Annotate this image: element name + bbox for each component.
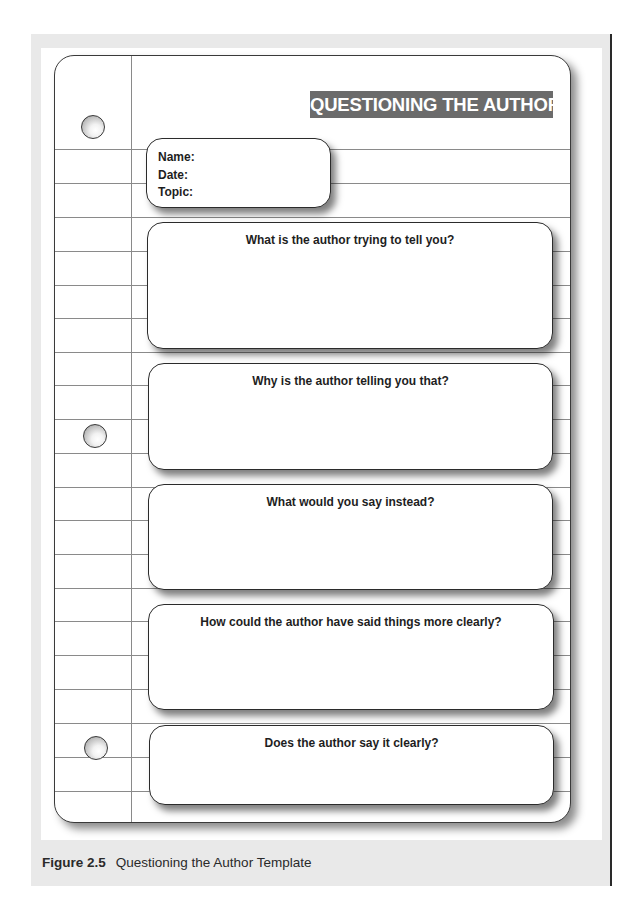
topic-field-label: Topic: bbox=[158, 184, 330, 202]
question-box-4[interactable]: How could the author have said things mo… bbox=[148, 604, 554, 710]
ruled-line bbox=[55, 352, 570, 353]
figure-number: Figure 2.5 bbox=[42, 855, 106, 870]
binder-hole-icon bbox=[81, 115, 105, 139]
question-box-1[interactable]: What is the author trying to tell you? bbox=[147, 222, 553, 349]
binder-hole-icon bbox=[83, 424, 107, 448]
question-box-3[interactable]: What would you say instead? bbox=[148, 484, 553, 590]
binder-hole-icon bbox=[84, 736, 108, 760]
question-label: What is the author trying to tell you? bbox=[148, 233, 552, 247]
question-box-2[interactable]: Why is the author telling you that? bbox=[148, 363, 553, 470]
question-label: Does the author say it clearly? bbox=[150, 736, 553, 750]
margin-line bbox=[131, 56, 132, 822]
name-field-label: Name: bbox=[158, 149, 330, 167]
student-info-box[interactable]: Name: Date: Topic: bbox=[146, 138, 331, 208]
page-title: QUESTIONING THE AUTHOR bbox=[310, 91, 553, 118]
figure-caption: Figure 2.5Questioning the Author Templat… bbox=[42, 855, 311, 870]
ruled-line bbox=[55, 723, 570, 724]
question-label: Why is the author telling you that? bbox=[149, 374, 552, 388]
date-field-label: Date: bbox=[158, 167, 330, 185]
question-label: How could the author have said things mo… bbox=[149, 615, 553, 629]
question-label: What would you say instead? bbox=[149, 495, 552, 509]
ruled-line bbox=[55, 217, 570, 218]
question-box-5[interactable]: Does the author say it clearly? bbox=[149, 725, 554, 805]
figure-caption-text: Questioning the Author Template bbox=[116, 855, 312, 870]
